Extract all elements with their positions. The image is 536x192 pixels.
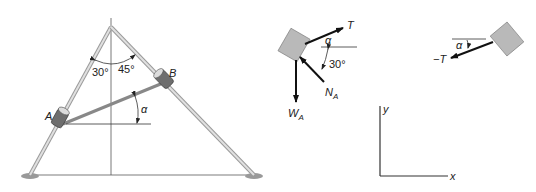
angle-label-45: 45° <box>118 63 135 75</box>
alpha-label: α <box>141 103 148 115</box>
weight-label-a-sub: A <box>297 113 303 122</box>
alpha-arc-b <box>467 40 468 48</box>
angle-label-30: 30° <box>92 66 109 78</box>
diagram-canvas: 30° 45° α A B T α 30° <box>0 0 536 192</box>
alpha-arc <box>135 96 138 123</box>
tension-label-a: T <box>347 19 355 31</box>
left-rod-highlight <box>30 27 111 175</box>
coordinate-axes: y x <box>380 103 456 182</box>
weight-label-a: WA <box>288 107 304 122</box>
block-b <box>490 22 524 56</box>
collar-a-label: A <box>44 110 52 122</box>
block-a <box>278 28 310 62</box>
normal-arrow-b: ="82" x2="493" y2="47" stroke="#111" str… <box>0 0 464 82</box>
free-body-diagram-a: T α 30° NA WA <box>278 19 357 122</box>
tension-arrow-a <box>305 28 343 44</box>
normal-arrow-a <box>300 57 324 82</box>
normal-label-a-sub: A <box>332 92 338 101</box>
alpha-label-a: α <box>325 34 332 46</box>
angle-arc-30 <box>95 60 111 64</box>
right-rod-highlight <box>111 27 254 175</box>
y-axis-label: y <box>382 103 390 115</box>
collar-b-label: B <box>169 67 176 79</box>
angle-arc-30-a <box>322 49 328 69</box>
angle-label-30-a: 30° <box>329 58 346 70</box>
normal-label-a: NA <box>325 86 338 101</box>
structure: 30° 45° α A B <box>21 18 263 179</box>
x-axis-label: x <box>449 170 456 182</box>
free-body-diagram-b: α −T ="82" x2="493" y2="47" stroke="#111… <box>0 0 524 82</box>
normal-label-a-main: N <box>325 86 333 98</box>
tension-label-b: −T <box>433 53 447 65</box>
alpha-label-b: α <box>456 39 463 51</box>
